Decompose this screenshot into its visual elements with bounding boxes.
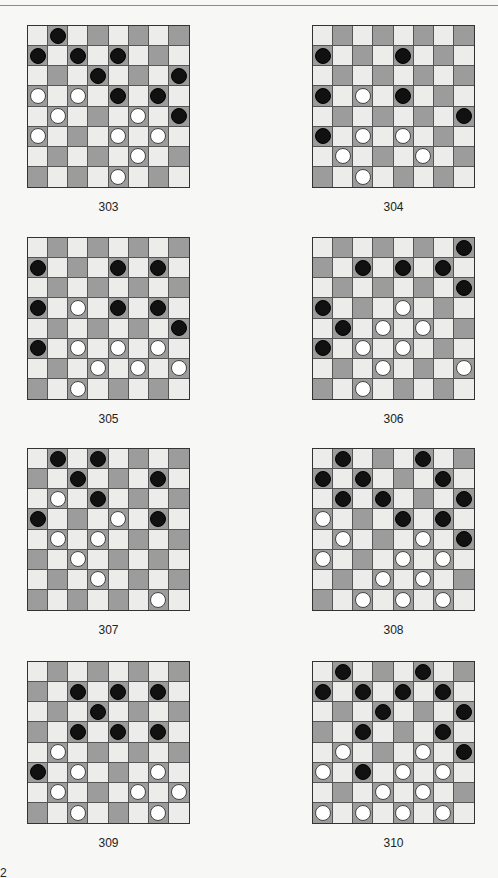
dark-square [129, 530, 149, 550]
checkers-board [27, 237, 190, 400]
light-square [129, 127, 149, 147]
light-square [68, 489, 88, 509]
white-checker-icon [415, 744, 431, 760]
black-checker-icon [150, 724, 166, 740]
dark-square [414, 278, 434, 298]
light-square [48, 469, 68, 489]
dark-square [394, 258, 414, 278]
light-square [394, 489, 414, 509]
dark-square [88, 147, 108, 167]
black-checker-icon [50, 28, 66, 44]
dark-square [373, 359, 393, 379]
dark-square [109, 167, 129, 187]
light-square [394, 530, 414, 550]
black-checker-icon [335, 320, 351, 336]
light-square [454, 127, 474, 147]
light-square [109, 278, 129, 298]
light-square [88, 682, 108, 702]
light-square [313, 107, 333, 127]
light-square [353, 449, 373, 469]
dark-square [454, 702, 474, 722]
light-square [129, 550, 149, 570]
light-square [394, 449, 414, 469]
light-square [313, 570, 333, 590]
light-square [88, 339, 108, 359]
light-square [353, 66, 373, 86]
checkers-diagram: 307 [27, 448, 190, 637]
light-square [109, 570, 129, 590]
light-square [149, 238, 169, 258]
dark-square [333, 702, 353, 722]
black-checker-icon [30, 764, 46, 780]
light-square [414, 167, 434, 187]
dark-square [109, 682, 129, 702]
dark-square [28, 167, 48, 187]
light-square [169, 550, 189, 570]
light-square [313, 449, 333, 469]
dark-square [434, 86, 454, 106]
light-square [68, 530, 88, 550]
light-square [169, 803, 189, 823]
dark-square [48, 319, 68, 339]
dark-square [28, 803, 48, 823]
dark-square [353, 298, 373, 318]
dark-square [454, 530, 474, 550]
white-checker-icon [50, 784, 66, 800]
dark-square [88, 489, 108, 509]
light-square [373, 379, 393, 399]
light-square [68, 319, 88, 339]
light-square [414, 469, 434, 489]
light-square [68, 743, 88, 763]
light-square [48, 167, 68, 187]
dark-square [394, 86, 414, 106]
light-square [149, 783, 169, 803]
light-square [333, 339, 353, 359]
light-square [333, 509, 353, 529]
white-checker-icon [110, 128, 126, 144]
dark-square [414, 26, 434, 46]
checkers-diagram: 309 [27, 661, 190, 850]
dark-square [394, 46, 414, 66]
dark-square [394, 509, 414, 529]
white-checker-icon [375, 320, 391, 336]
dark-square [454, 449, 474, 469]
dark-square [28, 46, 48, 66]
light-square [109, 359, 129, 379]
dark-square [373, 530, 393, 550]
dark-square [48, 147, 68, 167]
black-checker-icon [355, 684, 371, 700]
light-square [129, 339, 149, 359]
dark-square [68, 509, 88, 529]
light-square [48, 763, 68, 783]
black-checker-icon [70, 684, 86, 700]
dark-square [88, 530, 108, 550]
light-square [109, 783, 129, 803]
light-square [373, 86, 393, 106]
light-square [333, 682, 353, 702]
light-square [28, 238, 48, 258]
black-checker-icon [456, 491, 472, 507]
diagram-number: 309 [27, 836, 190, 850]
dark-square [454, 570, 474, 590]
dark-square [109, 46, 129, 66]
dark-square [88, 783, 108, 803]
checkers-diagram: 305 [27, 237, 190, 426]
dark-square [48, 107, 68, 127]
white-checker-icon [70, 764, 86, 780]
dark-square [28, 722, 48, 742]
light-square [373, 550, 393, 570]
dark-square [313, 127, 333, 147]
dark-square [353, 339, 373, 359]
black-checker-icon [335, 491, 351, 507]
light-square [149, 570, 169, 590]
dark-square [353, 127, 373, 147]
light-square [373, 167, 393, 187]
checkers-diagram: 304 [312, 25, 475, 214]
light-square [434, 743, 454, 763]
black-checker-icon [355, 260, 371, 276]
dark-square [48, 359, 68, 379]
dark-square [28, 86, 48, 106]
light-square [333, 803, 353, 823]
diagram-number: 306 [312, 412, 475, 426]
white-checker-icon [90, 571, 106, 587]
